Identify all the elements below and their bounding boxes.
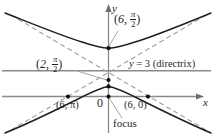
label-focus: focus	[113, 118, 137, 129]
origin-label: 0	[97, 97, 103, 109]
label-vertex-inner: (2, π2)	[36, 55, 62, 74]
leader-focus	[110, 99, 123, 119]
label-vertex-top-close: )	[136, 12, 140, 26]
label-point-right: (6, 0)	[124, 100, 147, 111]
label-directrix-rest: = 3 (directrix)	[134, 58, 196, 69]
label-vertex-inner-close: )	[58, 57, 62, 71]
leader-vertex-top	[109, 31, 118, 46]
polar-conic-figure: y x 0 (6, π2) (2, π2) y = 3 (directrix) …	[0, 0, 213, 135]
label-directrix: y = 3 (directrix)	[129, 59, 195, 70]
label-point-left: (6, π)	[56, 100, 79, 111]
y-axis-arrow	[105, 4, 111, 12]
point-vertex-inner	[106, 78, 110, 82]
point-vertex-lower	[106, 84, 110, 88]
point-focus-origin	[106, 95, 110, 99]
point-vertex-top	[106, 46, 110, 50]
label-vertex-top: (6, π2)	[114, 10, 140, 29]
x-axis-label: x	[203, 97, 208, 108]
